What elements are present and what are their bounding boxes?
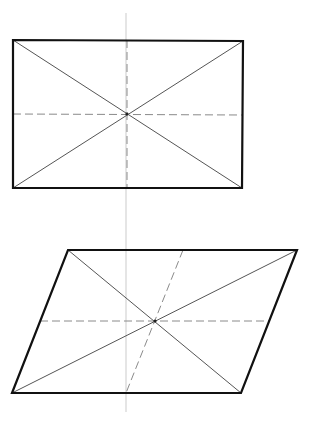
diagram-canvas [0, 0, 314, 424]
parallelogram-figure [12, 250, 297, 393]
rectangle-center-point [125, 112, 128, 115]
parallelogram-center-point [153, 319, 156, 322]
rectangle-figure [13, 40, 243, 188]
